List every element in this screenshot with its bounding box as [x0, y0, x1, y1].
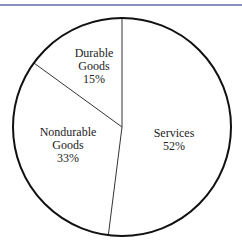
slice-label-percent: 33%	[40, 152, 97, 165]
pie-chart	[0, 0, 242, 250]
slice-label-durable-goods: Durable Goods 15%	[75, 47, 114, 86]
slice-label-percent: 15%	[75, 73, 114, 86]
slice-label-nondurable-goods: Nondurable Goods 33%	[40, 126, 97, 165]
slice-label-services: Services 52%	[154, 127, 195, 153]
slice-label-percent: 52%	[154, 140, 195, 153]
